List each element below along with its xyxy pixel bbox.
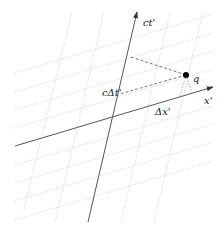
event-point-q	[183, 72, 189, 78]
ct-axis-label: ct'	[143, 17, 155, 28]
spacetime-diagram: ct' x' q cΔt' Δx'	[0, 0, 224, 226]
delta-x-label: Δx'	[154, 106, 171, 117]
projection-lines	[120, 57, 186, 94]
projection-to-ct-axis	[120, 75, 186, 94]
x-axis-label: x'	[204, 95, 212, 106]
point-q-label: q	[193, 73, 199, 84]
c-delta-t-label: cΔt'	[102, 87, 122, 98]
